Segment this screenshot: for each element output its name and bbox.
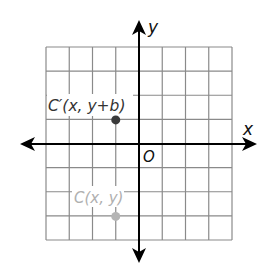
x-axis-label: x [242,119,254,139]
coordinate-plane: x y O C′(x, y+b) C(x, y) [0,0,267,276]
origin-label: O [143,148,155,166]
point-c-prime-label: C′(x, y+b) [48,97,125,115]
point-c [111,212,120,221]
point-c-prime [111,115,120,124]
y-axis-label: y [147,17,159,37]
axes [20,20,257,263]
point-c-label: C(x, y) [74,189,123,207]
